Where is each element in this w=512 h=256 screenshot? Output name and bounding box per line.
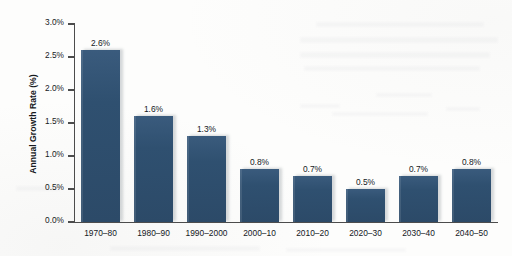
bar-item[interactable]: 0.7% [399, 24, 438, 222]
y-axis-tick-label: 1.0% [45, 149, 64, 159]
bar-value-label: 0.8% [462, 157, 481, 167]
x-axis-line [74, 222, 498, 223]
bar-item[interactable]: 1.3% [187, 24, 226, 222]
bar-value-label: 0.7% [409, 164, 428, 174]
bar-item[interactable]: 0.7% [293, 24, 332, 222]
y-axis-line [74, 23, 75, 223]
y-axis-tick: 2.5% [68, 56, 74, 57]
y-axis-tick: 1.0% [68, 155, 74, 156]
y-axis-title: Annual Growth Rate (%) [28, 50, 38, 198]
x-axis-tick-label: 2010–20 [286, 228, 339, 238]
x-axis-tick-label: 2000–10 [233, 228, 286, 238]
bar-item[interactable]: 0.5% [346, 24, 385, 222]
y-axis-tick: 3.0% [68, 23, 74, 24]
bar-item[interactable]: 0.8% [452, 24, 491, 222]
bar-value-label: 1.6% [144, 104, 163, 114]
bar-value-label: 0.7% [303, 164, 322, 174]
bar-value-label: 0.5% [356, 177, 375, 187]
y-axis-tick-label: 0.5% [45, 182, 64, 192]
y-axis-tick: 1.5% [68, 122, 74, 123]
y-axis-tick: 0.0% [68, 221, 74, 222]
y-axis-tick-label: 3.0% [45, 17, 64, 27]
bar[interactable] [346, 189, 385, 222]
chart-page: Annual Growth Rate (%) 0.0%0.5%1.0%1.5%2… [0, 0, 512, 256]
x-axis-tick-label: 2020–30 [339, 228, 392, 238]
y-axis-tick-label: 0.0% [45, 215, 64, 225]
bar-value-label: 2.6% [91, 38, 110, 48]
x-axis-tick-label: 1990–2000 [180, 228, 233, 238]
bar-value-label: 1.3% [197, 124, 216, 134]
x-axis-tick-label: 1970–80 [74, 228, 127, 238]
x-axis-tick-label: 1980–90 [127, 228, 180, 238]
y-axis-tick: 2.0% [68, 89, 74, 90]
bar[interactable] [81, 50, 120, 222]
bar[interactable] [240, 169, 279, 222]
bar-item[interactable]: 0.8% [240, 24, 279, 222]
x-axis-tick-label: 2040–50 [445, 228, 498, 238]
x-axis-tick-label: 2030–40 [392, 228, 445, 238]
bar[interactable] [134, 116, 173, 222]
y-axis-tick: 0.5% [68, 188, 74, 189]
bar[interactable] [399, 176, 438, 222]
bar[interactable] [452, 169, 491, 222]
y-axis-tick-label: 2.5% [45, 50, 64, 60]
bar-chart: Annual Growth Rate (%) 0.0%0.5%1.0%1.5%2… [0, 0, 512, 256]
bar-item[interactable]: 2.6% [81, 24, 120, 222]
y-axis-tick-label: 2.0% [45, 83, 64, 93]
bar-value-label: 0.8% [250, 157, 269, 167]
bar[interactable] [187, 136, 226, 222]
y-axis-tick-label: 1.5% [45, 116, 64, 126]
bar-item[interactable]: 1.6% [134, 24, 173, 222]
bar[interactable] [293, 176, 332, 222]
